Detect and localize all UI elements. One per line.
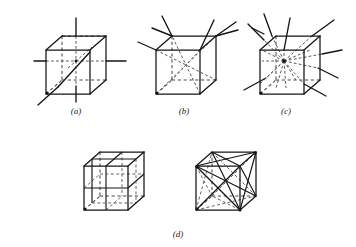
cube-corner-dot <box>259 91 262 94</box>
axis-2fold-5-opp <box>284 61 286 88</box>
axis-2fold-3-opp-outer <box>304 84 326 96</box>
axis-2fold-3-outer <box>248 24 264 40</box>
cube-edge-tl-depth <box>156 36 172 50</box>
cube-solid-edges-a <box>46 36 106 94</box>
panel-label-b: (b) <box>164 106 204 116</box>
axis-2fold-6-inner <box>284 61 318 68</box>
cube-corner-dot-tr <box>254 152 257 155</box>
axis-2fold-5-outer <box>264 14 272 36</box>
axis-2fold-6-outer <box>318 68 338 78</box>
cube-edge-tl-depth <box>46 36 62 50</box>
axis-diag2-outer <box>138 42 156 50</box>
panel-label-a: (a) <box>56 106 96 116</box>
cube-edge-tr-depth <box>200 36 216 50</box>
cube-corner-dot-tl <box>196 166 199 169</box>
cube-diagram-d-left <box>78 136 178 232</box>
mirror-plane-horizontal <box>84 174 144 188</box>
hidden-edge-back-left <box>156 80 172 94</box>
axis-2fold-4-opp-outer <box>244 78 266 90</box>
cube-front-face <box>156 50 200 94</box>
axis-2fold-8-inner <box>284 50 310 61</box>
axis-2fold-4-outer <box>312 20 334 36</box>
axis-body-diagonal-mid <box>58 52 90 87</box>
axis-diag4-inner <box>172 36 200 94</box>
axis-2fold-2-outer <box>322 50 342 54</box>
panel-label-d: (d) <box>158 229 198 239</box>
plane-diag-interior-2 <box>212 152 240 210</box>
plane-diag-bottom-2 <box>212 196 240 210</box>
cube-edge-br-depth <box>90 80 106 94</box>
panel-d-left <box>78 136 178 232</box>
cube-corner-dot <box>84 208 87 211</box>
axis-group-2fold <box>244 14 342 96</box>
cube-corner-dot-bl <box>196 208 199 211</box>
plane-diag-right-2 <box>240 152 256 210</box>
panel-b: (b) <box>136 10 254 110</box>
panel-a: (a) <box>30 10 150 110</box>
cube-diagram-d-right <box>190 136 290 232</box>
cube-edge-br-depth <box>200 80 216 94</box>
cube-diagram-a <box>30 10 150 110</box>
cube-corner-dot <box>155 91 158 94</box>
cube-front-face <box>260 50 304 94</box>
panel-label-c: (c) <box>266 106 306 116</box>
cube-diagram-c <box>238 6 356 110</box>
axis-group-3fold <box>138 16 238 94</box>
cube-solid-edges-d-left <box>84 152 144 210</box>
cube-diagram-b <box>136 10 254 110</box>
panel-c: (c) <box>238 6 356 110</box>
cube-front-face <box>46 50 90 94</box>
cube-edge-tr-depth <box>90 36 106 50</box>
axis-2fold-5-inner <box>272 36 284 61</box>
cube-edge-tr-depth <box>304 36 320 50</box>
axis-2fold-2-opp <box>284 54 322 61</box>
axis-2fold-1-opp <box>284 61 296 80</box>
mirror-plane-vertical-lr <box>106 152 122 210</box>
axis-diag3-outer <box>200 20 214 50</box>
hidden-edge-back-left <box>46 80 62 94</box>
axis-2fold-6-opp <box>262 50 284 61</box>
axis-2fold-4-inner <box>284 36 312 61</box>
figure-canvas: (a) <box>0 0 356 247</box>
panel-d-right <box>190 136 290 232</box>
cube-corner-dot-br <box>239 209 242 212</box>
plane-diag-bottom-1 <box>196 196 256 210</box>
plane-diag-top-2 <box>212 152 240 166</box>
axis-body-diagonal <box>38 87 58 105</box>
axis-2fold-1-outer <box>284 18 290 50</box>
cube-corner-dot <box>45 91 48 94</box>
cube-centre-dot <box>282 59 286 63</box>
cube-centre-dot <box>75 60 78 63</box>
